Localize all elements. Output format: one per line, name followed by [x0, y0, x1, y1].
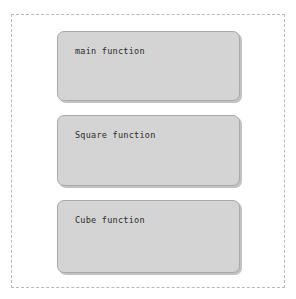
- function-block-main[interactable]: main function: [57, 31, 240, 101]
- function-block-label: main function: [75, 46, 145, 56]
- function-block-square[interactable]: Square function: [57, 115, 240, 186]
- function-block-label: Square function: [75, 130, 156, 140]
- function-block-cube[interactable]: Cube function: [57, 200, 240, 273]
- diagram-canvas: main function Square function Cube funct…: [0, 0, 296, 299]
- function-block-label: Cube function: [75, 215, 145, 225]
